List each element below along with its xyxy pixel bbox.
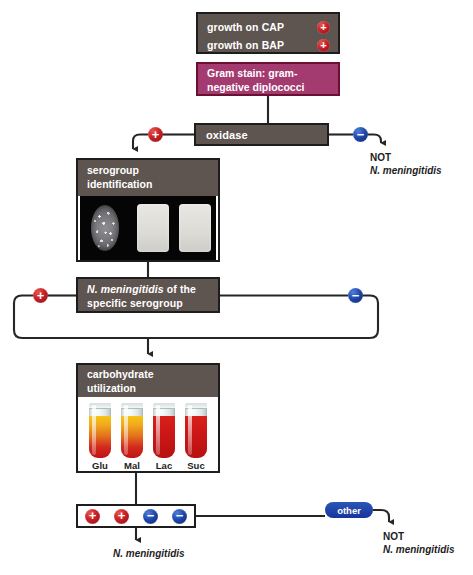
nm-serogroup-line1: N. meningitidis of the [87,282,212,296]
wire-oxidase-negative-down [366,135,381,144]
growth-row-cap: growth on CAP + [207,18,330,36]
lactose-result-badge: − [143,509,158,524]
carbohydrate-header-line2: utilization [87,382,218,396]
sucrose-tube-label: Suc [187,460,204,471]
carbohydrate-header-line1: carbohydrate [87,368,218,382]
nm-serogroup-line2: specific serogroup [87,296,212,310]
lactose-tube-label: Lac [156,460,172,471]
serogroup-negative-badge: − [348,288,363,303]
wire-oxidase-positive-down [133,135,148,150]
gram-stain-box: Gram stain: gram- negative diplococci [196,62,340,96]
sucrose-tube-glass [185,403,207,458]
oxidase-terminal-line2: N. meningitidis [370,165,442,178]
growth-row-bap: growth on BAP + [207,36,330,54]
other-terminal-line2: N. meningitidis [383,544,455,557]
growth-media-box: growth on CAP + growth on BAP + [196,12,340,54]
carbohydrate-card-header: carbohydrate utilization [78,365,218,397]
sucrose-tube: Suc [183,403,209,471]
growth-bap-label: growth on BAP [207,36,284,54]
lactose-tube: Lac [151,403,177,471]
growth-cap-result-badge: + [317,21,330,34]
nm-serogroup-species: N. meningitidis [87,283,164,295]
oxidase-label: oxidase [206,129,248,141]
maltose-result-badge: + [114,509,129,524]
agglutination-negative-slab-2 [179,204,211,252]
glucose-result-badge: + [85,509,100,524]
serogroup-header-line1: serogroup [87,164,218,178]
oxidase-negative-badge: − [353,127,368,142]
carbohydrate-utilization-card: carbohydrate utilization Glu Mal [76,363,220,473]
glucose-tube-glass [89,403,111,458]
other-branch-terminal: NOT N. meningitidis [383,531,455,556]
serogroup-positive-badge: + [33,288,48,303]
glucose-tube-gloss [92,405,96,455]
growth-cap-label: growth on CAP [207,18,284,36]
growth-bap-result-badge: + [317,39,330,52]
wire-other-down [373,510,389,522]
serogroup-card-header: serogroup identification [78,160,218,196]
serogroup-header-line2: identification [87,178,218,192]
gram-stain-line2: negative diplococci [207,81,330,95]
nm-serogroup-line1-rest: of the [164,283,196,295]
oxidase-terminal-line1: NOT [370,152,442,165]
agglutination-negative-slab-1 [137,204,169,252]
other-terminal-line1: NOT [383,531,455,544]
other-branch-pill: other [325,502,373,518]
other-branch-label: other [337,505,361,516]
gram-stain-line1: Gram stain: gram- [207,67,330,81]
agglutination-positive-oval [91,205,119,251]
sucrose-tube-gloss [188,405,192,455]
maltose-tube-glass [121,403,143,458]
flowchart-canvas: growth on CAP + growth on BAP + Gram sta… [0,0,473,575]
final-identification-label: N. meningitidis [113,548,185,561]
glucose-tube: Glu [87,403,113,471]
maltose-tube-gloss [124,405,128,455]
maltose-tube: Mal [119,403,145,471]
carbohydrate-results-row: + + − − [76,504,196,528]
agglutination-test-photo [80,196,216,260]
glucose-tube-label: Glu [92,460,108,471]
oxidase-positive-badge: + [148,127,163,142]
sucrose-result-badge: − [172,509,187,524]
lactose-tube-gloss [156,405,160,455]
serogroup-identification-card: serogroup identification [76,158,220,262]
oxidase-negative-terminal: NOT N. meningitidis [370,152,442,177]
maltose-tube-label: Mal [124,460,140,471]
carbohydrate-tube-rack: Glu Mal Lac [78,397,218,471]
nm-specific-serogroup-box: N. meningitidis of the specific serogrou… [76,277,220,313]
lactose-tube-glass [153,403,175,458]
oxidase-test-box: oxidase [194,123,329,146]
